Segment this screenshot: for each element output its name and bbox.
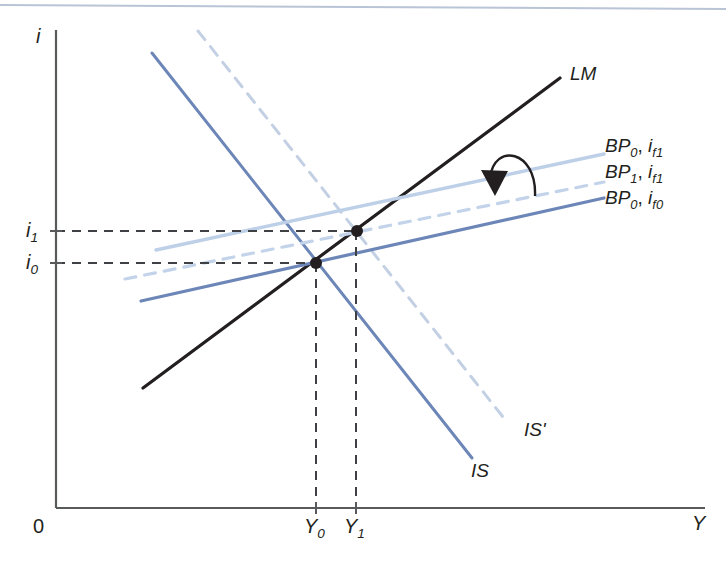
x-tick-Y0-sub: 0	[317, 526, 325, 541]
point-equilibrium-0	[310, 257, 322, 269]
curve-is	[152, 53, 472, 458]
curve-label-is-prime: IS'	[524, 420, 546, 439]
legend-2-comma: ,	[638, 187, 649, 208]
legend-1-sub: 1	[630, 171, 637, 186]
legend-0-comma: ,	[638, 135, 649, 156]
y-tick-i1-sub: 1	[30, 230, 38, 245]
shift-arrow-head	[481, 170, 508, 196]
legend-1-base: BP	[605, 161, 630, 182]
legend-1-comma: ,	[638, 161, 649, 182]
axes	[56, 30, 705, 508]
axis-ticks	[50, 231, 356, 514]
legend-0-sub: 0	[630, 145, 637, 160]
legend-label-bp0-if1: BP0, if1	[605, 136, 663, 160]
origin-label: 0	[33, 516, 44, 536]
legend-1-sub2: f1	[652, 171, 663, 186]
y-tick-label-i0: i0	[26, 252, 38, 277]
x-tick-Y1-base: Y	[344, 515, 357, 537]
x-tick-Y1-sub: 1	[357, 526, 365, 541]
curve-label-is: IS	[471, 461, 489, 480]
legend-label-bp1-if1: BP1, if1	[605, 162, 663, 186]
curve-is_prime	[198, 31, 503, 417]
legend-label-bp0-if0: BP0, if0	[605, 188, 663, 212]
diagram-canvas	[0, 0, 726, 568]
is-lm-bp-figure: i Y 0 i1 i0 Y0 Y1 LM IS' IS BP0, if1 BP1…	[0, 0, 726, 568]
curves	[125, 31, 604, 458]
y-tick-label-i1: i1	[26, 220, 38, 245]
x-tick-Y0-base: Y	[304, 515, 317, 537]
curve-bp1_if1	[125, 182, 604, 279]
y-tick-i0-sub: 0	[30, 262, 38, 277]
x-tick-label-Y0: Y0	[304, 516, 325, 541]
top-rule-line	[0, 5, 726, 9]
top-rule	[0, 5, 726, 9]
legend-2-sub: 0	[630, 197, 637, 212]
legend-2-base: BP	[605, 187, 630, 208]
guide-lines	[56, 231, 357, 508]
curve-bp0_if1	[156, 154, 604, 250]
y-axis-label: i	[36, 26, 40, 46]
legend-0-base: BP	[605, 135, 630, 156]
legend-0-sub2: f1	[652, 145, 663, 160]
x-axis-label: Y	[692, 513, 705, 533]
point-equilibrium-1	[351, 225, 363, 237]
legend-2-sub2: f0	[652, 197, 663, 212]
curve-label-lm: LM	[570, 64, 596, 83]
x-tick-label-Y1: Y1	[344, 516, 365, 541]
curve-bp0_if0	[141, 198, 604, 301]
